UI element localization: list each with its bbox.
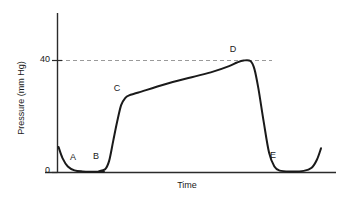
point-label-a: A — [65, 152, 81, 162]
point-label-b: B — [88, 151, 104, 161]
point-label-c: C — [109, 83, 125, 93]
pressure-time-plot — [0, 0, 343, 202]
point-label-d: D — [225, 44, 241, 54]
y-tick-label-40: 40 — [24, 54, 50, 64]
x-axis-title: Time — [137, 180, 237, 190]
y-tick-label-0: 0 — [24, 165, 50, 175]
chart-figure: Pressure (mm Hg) Time 40 0 A B C D E — [0, 0, 343, 202]
point-label-e: E — [265, 150, 281, 160]
